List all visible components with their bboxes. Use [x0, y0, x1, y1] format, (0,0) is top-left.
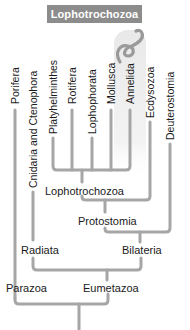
phylogenetic-tree: Lophotrochozoa Porifera Cnidaria and Cte… [0, 0, 190, 330]
taxon-label-platyhelminthes: Platyhelminthes [47, 60, 59, 134]
taxon-label-annelida: Annelida [124, 63, 136, 104]
clade-header: Lophotrochozoa [47, 5, 142, 23]
taxon-label-cnidaria-ctenophora: Cnidaria and Ctenophora [27, 71, 39, 188]
taxon-label-porifera: Porifera [9, 67, 21, 104]
taxon-label-mollusca: Mollusca [105, 63, 117, 104]
taxon-label-deuterostomia: Deuterostomia [164, 72, 176, 140]
taxon-label-ecdysozoa: Ecdysozoa [144, 67, 156, 118]
clade-label-radiata: Radiata [21, 244, 59, 256]
branch-root [15, 294, 108, 304]
clade-label-protostomia: Protostomia [78, 215, 137, 227]
taxon-label-rotifera: Rotifera [66, 67, 78, 104]
branch-eumetazoa [33, 258, 141, 270]
clade-header-title: Lophotrochozoa [51, 8, 139, 20]
taxon-label-lophophorata: Lophophorata [86, 69, 98, 134]
clade-label-eumetazoa: Eumetazoa [83, 282, 139, 294]
clade-label-lophotrochozoa: Lophotrochozoa [45, 185, 124, 197]
clade-label-bilateria: Bilateria [122, 244, 162, 256]
clade-label-parazoa: Parazoa [6, 282, 47, 294]
